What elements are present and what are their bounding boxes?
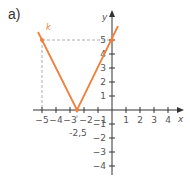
svg-text:3: 3 xyxy=(100,63,106,73)
svg-text:−4: −4 xyxy=(49,115,63,125)
svg-text:5: 5 xyxy=(100,35,106,45)
svg-text:4: 4 xyxy=(165,115,171,125)
svg-text:−1: −1 xyxy=(93,119,106,129)
vertex-annotation: -2,5 xyxy=(69,128,87,138)
function-label: k xyxy=(46,23,51,32)
y-axis-arrow-icon xyxy=(109,10,115,17)
svg-text:−5: −5 xyxy=(35,115,48,125)
svg-text:−3: −3 xyxy=(93,147,106,157)
svg-text:2: 2 xyxy=(100,77,106,87)
svg-text:1: 1 xyxy=(123,115,129,125)
svg-text:−2: −2 xyxy=(93,133,106,143)
svg-text:2: 2 xyxy=(137,115,143,125)
svg-text:1: 1 xyxy=(100,91,106,101)
svg-text:3: 3 xyxy=(151,115,157,125)
svg-text:−4: −4 xyxy=(93,161,107,171)
function-k-line xyxy=(38,26,118,110)
function-graph: −5 −4 −3 −2 −1 1 2 3 4 5 4 3 2 1 −1 −2 −… xyxy=(0,0,190,190)
x-axis-label: x xyxy=(177,114,184,124)
svg-text:−2: −2 xyxy=(79,115,92,125)
axes xyxy=(33,14,180,175)
x-axis-arrow-icon xyxy=(177,107,184,113)
y-axis-label: y xyxy=(101,12,108,22)
svg-text:−3: −3 xyxy=(63,115,76,125)
